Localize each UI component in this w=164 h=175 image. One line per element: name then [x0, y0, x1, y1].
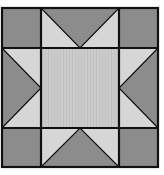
- center-square: [41, 48, 119, 128]
- corner-bottom-left: [2, 128, 41, 167]
- corner-bottom-right: [119, 128, 158, 167]
- star-point-right: [119, 48, 158, 128]
- star-point-bottom: [41, 128, 119, 167]
- star-point-top: [41, 8, 119, 48]
- star-point-left: [2, 48, 41, 128]
- corner-top-left: [2, 8, 41, 48]
- quilt-block: [0, 0, 164, 175]
- corner-top-right: [119, 8, 158, 48]
